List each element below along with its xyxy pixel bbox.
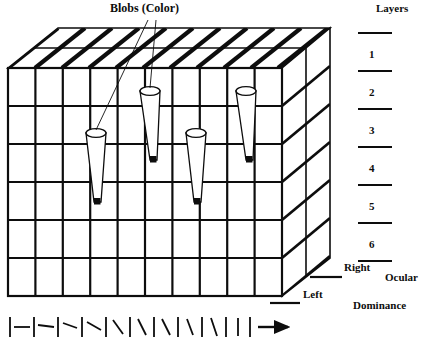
cube-top-face <box>8 28 330 68</box>
figure-canvas: Blobs (Color) Layers 1 2 3 4 5 6 Right L… <box>0 0 436 348</box>
layer-tick-marks <box>358 33 392 261</box>
layer-number-5: 5 <box>369 200 375 212</box>
layer-number-3: 3 <box>369 124 375 136</box>
layer-number-1: 1 <box>369 48 375 60</box>
ocular-caption: Ocular <box>385 272 418 283</box>
layer-number-4: 4 <box>369 162 375 174</box>
ocular-dominance-right-label: Right <box>344 262 370 273</box>
orientation-segments <box>14 318 238 336</box>
layer-number-6: 6 <box>369 238 375 250</box>
layers-label: Layers <box>376 3 408 14</box>
ocular-dominance-left-label: Left <box>303 289 323 300</box>
dominance-caption: Dominance <box>353 300 406 311</box>
orientation-column-bar <box>10 317 288 337</box>
cube-side-face <box>282 28 330 296</box>
blobs-label: Blobs (Color) <box>110 2 179 14</box>
layer-number-2: 2 <box>369 86 375 98</box>
